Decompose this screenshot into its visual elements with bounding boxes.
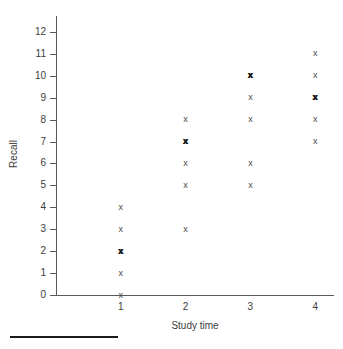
y-tick-label-text: 11 [26,49,46,59]
data-point-marker: x [311,71,320,80]
y-tick-mark [50,120,57,121]
data-point-marker: x [116,291,125,300]
data-point-marker: x [246,159,255,168]
y-tick-mark [50,295,57,296]
y-tick-mark [50,32,57,33]
data-point-marker: x [246,115,255,124]
bottom-rule [10,336,118,338]
y-tick-mark [50,207,57,208]
y-axis-line [56,16,57,296]
y-tick-label-text: 4 [26,202,46,212]
y-tick-mark [50,142,57,143]
y-tick-label-text: 2 [26,246,46,256]
data-point-marker: x [311,93,320,102]
scatter-plot: 0123456789101112 1234 xxxxxxxxxxxxxxxxxx… [0,0,343,349]
x-tick-label: 3 [235,301,265,313]
x-tick-label: 4 [300,301,330,313]
data-point-marker: x [311,137,320,146]
y-tick-label: 5 [24,180,46,190]
y-tick-label-text: 6 [26,158,46,168]
data-point-marker: x [181,225,190,234]
y-tick-label-text: 3 [26,224,46,234]
x-tick-label-text: 3 [235,301,265,313]
x-axis-line [56,295,334,296]
y-tick-label: 10 [24,71,46,81]
y-tick-mark [50,98,57,99]
y-axis-title: Recall [8,124,20,184]
x-tick-label-text: 4 [300,301,330,313]
y-tick-label: 11 [24,49,46,59]
data-point-marker: x [116,225,125,234]
y-tick-mark [50,54,57,55]
data-point-marker: x [246,93,255,102]
y-tick-mark [50,163,57,164]
y-tick-label: 2 [24,246,46,256]
data-point-marker: x [116,203,125,212]
y-tick-label: 8 [24,115,46,125]
y-tick-mark [50,273,57,274]
x-tick-label: 2 [171,301,201,313]
data-point-marker: x [181,115,190,124]
y-tick-label: 3 [24,224,46,234]
x-tick-label-text: 1 [106,301,136,313]
y-tick-label-text: 5 [26,180,46,190]
data-point-marker: x [181,137,190,146]
y-tick-label-text: 0 [26,290,46,300]
x-tick-label-text: 2 [171,301,201,313]
y-tick-label: 6 [24,158,46,168]
y-tick-label: 0 [24,290,46,300]
data-point-marker: x [116,247,125,256]
y-tick-label: 9 [24,93,46,103]
y-tick-label-text: 9 [26,93,46,103]
x-axis-title: Study time [56,320,334,332]
y-tick-label: 4 [24,202,46,212]
y-tick-label-text: 12 [26,27,46,37]
y-tick-mark [50,185,57,186]
y-tick-mark [50,229,57,230]
y-tick-label: 7 [24,137,46,147]
data-point-marker: x [181,181,190,190]
y-tick-label: 12 [24,27,46,37]
y-tick-label-text: 10 [26,71,46,81]
data-point-marker: x [311,115,320,124]
y-tick-label-text: 1 [26,268,46,278]
y-tick-label-text: 7 [26,137,46,147]
data-point-marker: x [246,71,255,80]
y-tick-label-text: 8 [26,115,46,125]
data-point-marker: x [181,159,190,168]
y-tick-label: 1 [24,268,46,278]
y-tick-mark [50,76,57,77]
x-tick-label: 1 [106,301,136,313]
data-point-marker: x [246,181,255,190]
y-tick-mark [50,251,57,252]
data-point-marker: x [116,269,125,278]
data-point-marker: x [311,49,320,58]
